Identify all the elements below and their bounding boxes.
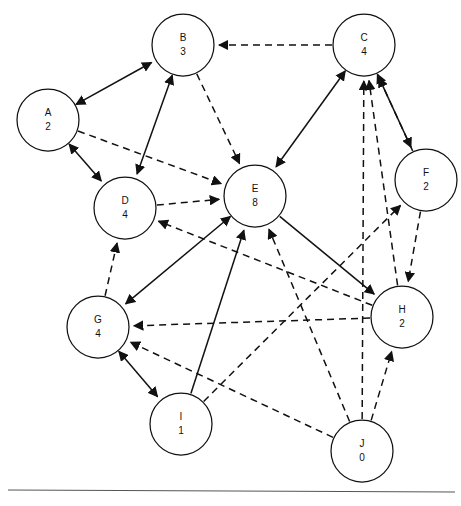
graph-node-e[interactable]: E8 <box>224 165 286 227</box>
graph-node-a[interactable]: A2 <box>17 89 79 151</box>
graph-edge <box>76 62 152 104</box>
graph-node-j[interactable]: J0 <box>331 420 393 482</box>
graph-node-d[interactable]: D4 <box>94 177 156 239</box>
edges-layer <box>69 45 420 437</box>
graph-node-g[interactable]: G4 <box>67 296 129 358</box>
graph-edge <box>280 216 375 294</box>
node-value: 4 <box>95 328 101 339</box>
graph-node-c[interactable]: C4 <box>333 14 395 76</box>
graph-edge <box>362 81 364 419</box>
graph-edge <box>159 221 373 305</box>
graph-edge <box>157 199 219 205</box>
node-label: D <box>121 195 128 206</box>
node-value: 1 <box>178 425 184 436</box>
node-value: 3 <box>180 46 186 57</box>
node-label: J <box>360 438 365 449</box>
node-value: 2 <box>45 121 51 132</box>
graph-node-i[interactable]: I1 <box>150 393 212 455</box>
node-value: 4 <box>122 209 128 220</box>
nodes-layer: A2B3C4D4E8F2G4H2I1J0 <box>17 14 457 482</box>
graph-edge <box>369 81 398 286</box>
node-label: H <box>398 304 405 315</box>
node-value: 8 <box>252 197 258 208</box>
node-label: G <box>94 314 102 325</box>
node-label: A <box>45 107 52 118</box>
graph-edge <box>137 75 172 174</box>
graph-edge <box>276 71 345 167</box>
node-value: 2 <box>423 181 429 192</box>
node-label: C <box>360 32 367 43</box>
node-value: 0 <box>359 452 365 463</box>
diagram-canvas: A2B3C4D4E8F2G4H2I1J0 <box>0 0 461 506</box>
graph-node-f[interactable]: F2 <box>395 149 457 211</box>
graph-node-b[interactable]: B3 <box>152 14 214 76</box>
node-value: 4 <box>361 46 367 57</box>
footer-divider <box>8 490 455 492</box>
graph-edge <box>105 243 117 296</box>
node-label: I <box>180 411 183 422</box>
node-label: B <box>180 32 187 43</box>
graph-edge <box>408 212 420 282</box>
graph-edge <box>191 230 244 393</box>
node-label: E <box>252 183 259 194</box>
graph-edge <box>119 351 158 396</box>
graph-node-h[interactable]: H2 <box>371 286 433 348</box>
node-value: 2 <box>399 318 405 329</box>
graph-edge <box>371 352 392 421</box>
graph-edge <box>134 318 370 326</box>
graph-edge <box>69 144 101 181</box>
node-label: F <box>423 167 429 178</box>
graph-edge <box>197 74 240 164</box>
graph-svg: A2B3C4D4E8F2G4H2I1J0 <box>0 0 461 506</box>
